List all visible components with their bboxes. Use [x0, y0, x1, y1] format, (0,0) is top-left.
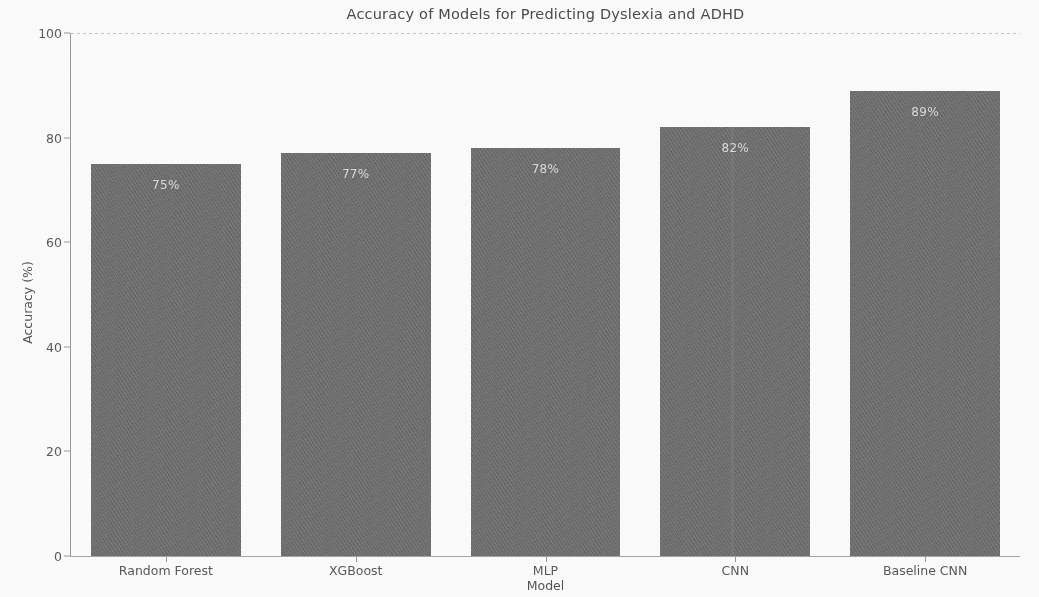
- x-axis-tick-mark: [735, 557, 736, 562]
- y-axis-tick-mark: [64, 137, 70, 138]
- x-axis-tick-label: Baseline CNN: [883, 563, 967, 578]
- x-axis-tick-label: MLP: [533, 563, 558, 578]
- y-axis-tick-mark: [64, 242, 70, 243]
- chart-title: Accuracy of Models for Predicting Dyslex…: [71, 6, 1020, 22]
- bar: 75%: [91, 164, 241, 556]
- bar-value-label: 78%: [471, 162, 621, 176]
- chart-figure: Accuracy of Models for Predicting Dyslex…: [0, 0, 1039, 597]
- x-axis-tick-label: CNN: [722, 563, 749, 578]
- y-axis-tick-mark: [64, 346, 70, 347]
- y-axis-tick-label: 20: [0, 444, 62, 459]
- bar: 82%: [660, 127, 810, 556]
- y-axis-tick-mark: [64, 556, 70, 557]
- plot-area: 75%77%78%82%89%: [71, 33, 1020, 556]
- bar: 77%: [281, 153, 431, 556]
- bar: 89%: [850, 91, 1000, 556]
- x-axis-tick-label: Random Forest: [119, 563, 213, 578]
- x-axis-tick-mark: [356, 557, 357, 562]
- x-axis-tick-mark: [925, 557, 926, 562]
- y-axis-tick-label: 40: [0, 339, 62, 354]
- y-axis-tick-label: 60: [0, 235, 62, 250]
- y-axis-tick-mark: [64, 451, 70, 452]
- y-axis-label: Accuracy (%): [20, 261, 35, 344]
- x-axis-tick-mark: [546, 557, 547, 562]
- bar-value-label: 77%: [281, 167, 431, 181]
- bar: 78%: [471, 148, 621, 556]
- x-axis-tick-label: XGBoost: [329, 563, 383, 578]
- y-axis-tick-label: 0: [0, 549, 62, 564]
- bar-value-label: 89%: [850, 105, 1000, 119]
- x-axis-tick-mark: [166, 557, 167, 562]
- bar-value-label: 75%: [91, 178, 241, 192]
- bar-value-label: 82%: [660, 141, 810, 155]
- y-axis-tick-label: 80: [0, 130, 62, 145]
- y-axis-tick-label: 100: [0, 26, 62, 41]
- y-axis-tick-mark: [64, 33, 70, 34]
- compression-streak: [731, 127, 734, 556]
- x-axis-label: Model: [71, 578, 1020, 593]
